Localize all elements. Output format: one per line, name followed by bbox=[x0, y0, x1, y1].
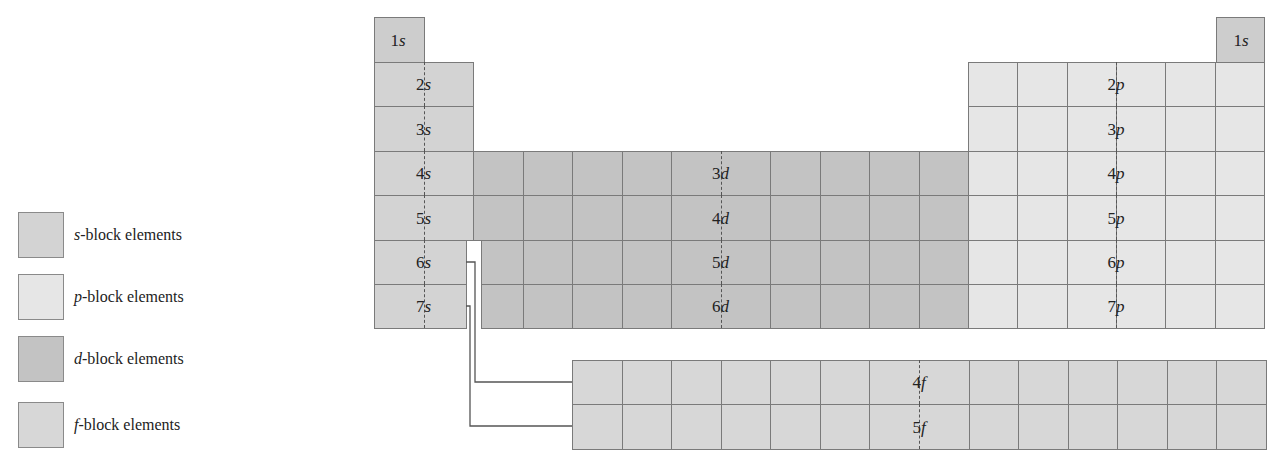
legend-label-s: s-block elements bbox=[74, 226, 182, 244]
block-description: -block elements bbox=[82, 288, 184, 305]
legend-item-d-block: d-block elements bbox=[18, 336, 184, 382]
block-description: -block elements bbox=[78, 416, 180, 433]
legend-swatch-d bbox=[18, 336, 64, 382]
block-description: -block elements bbox=[80, 226, 182, 243]
legend-label-d: d-block elements bbox=[74, 350, 184, 368]
legend-item-f-block: f-block elements bbox=[18, 402, 180, 448]
f-block-connector-lines bbox=[0, 0, 1276, 465]
block-description: -block elements bbox=[82, 350, 184, 367]
block-letter: p bbox=[74, 288, 82, 305]
legend-item-p-block: p-block elements bbox=[18, 274, 184, 320]
legend-label-f: f-block elements bbox=[74, 416, 180, 434]
legend-swatch-s bbox=[18, 212, 64, 258]
legend-swatch-p bbox=[18, 274, 64, 320]
legend-label-p: p-block elements bbox=[74, 288, 184, 306]
legend-swatch-f bbox=[18, 402, 64, 448]
block-letter: d bbox=[74, 350, 82, 367]
legend-item-s-block: s-block elements bbox=[18, 212, 182, 258]
